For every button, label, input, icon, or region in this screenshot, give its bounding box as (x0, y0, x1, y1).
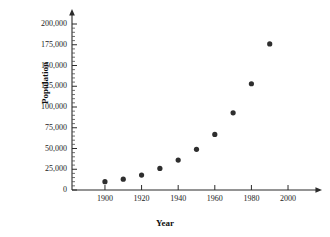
scatter-chart: 025,00050,00075,000100,000125,000150,000… (0, 0, 330, 237)
data-points (102, 41, 272, 184)
data-point (212, 132, 217, 137)
data-point (121, 177, 126, 182)
x-axis-ticks (105, 185, 288, 190)
y-tick-label: 50,000 (0, 145, 67, 153)
x-tick-label: 1900 (85, 195, 125, 203)
data-point (267, 41, 272, 46)
data-point (176, 158, 181, 163)
y-axis-ticks (72, 24, 77, 190)
axis-lines (72, 15, 316, 190)
data-point (139, 172, 144, 177)
y-tick-label: 100,000 (0, 103, 67, 111)
y-tick-label: 150,000 (0, 62, 67, 70)
x-tick-label: 1980 (231, 195, 271, 203)
x-tick-label: 1960 (195, 195, 235, 203)
data-point (102, 179, 107, 184)
data-point (194, 147, 199, 152)
data-point (231, 110, 236, 115)
y-tick-label: 0 (0, 186, 67, 194)
x-tick-label: 1920 (122, 195, 162, 203)
y-axis-title: Population (40, 48, 50, 118)
y-tick-label: 125,000 (0, 82, 67, 90)
x-tick-label: 2000 (268, 195, 308, 203)
data-point (249, 81, 254, 86)
y-tick-label: 200,000 (0, 20, 67, 28)
x-tick-label: 1940 (158, 195, 198, 203)
x-axis-title: Year (0, 218, 330, 228)
y-tick-label: 175,000 (0, 41, 67, 49)
y-tick-label: 25,000 (0, 165, 67, 173)
y-tick-label: 75,000 (0, 124, 67, 132)
data-point (157, 166, 162, 171)
